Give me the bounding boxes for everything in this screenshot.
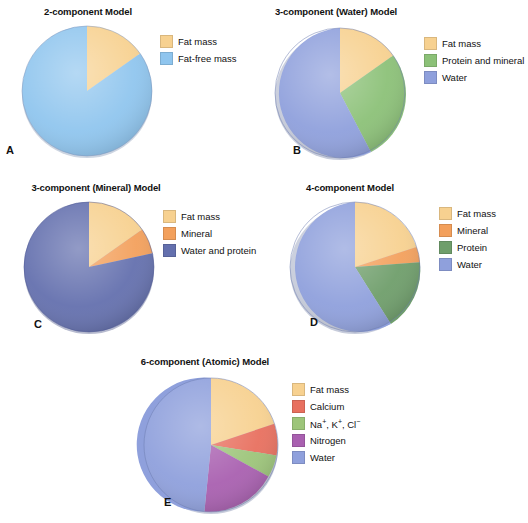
legend-swatch-protein-and-mineral-icon [424,54,437,67]
legend-item: Fat mass [163,209,256,223]
legend-label: Calcium [310,401,344,412]
panel-letter-e: E [164,496,171,508]
legend-label: Water [310,452,335,463]
legend-item: Fat mass [424,36,524,50]
legend-label: Fat mass [181,211,220,222]
pie-a-svg [20,24,154,158]
legend-label: Water and protein [181,245,256,256]
legend-item: Water [292,450,360,464]
legend-item: Fat mass [439,206,496,220]
legend-swatch-protein-icon [439,241,452,254]
panel-b: 3-component (Water) Model B Fat [248,6,528,17]
pie-chart-a: A [20,24,154,158]
pie-chart-e: E [142,376,280,514]
legend-label: Fat mass [442,38,481,49]
legend-label: Fat mass [178,36,217,47]
panel-e: 6-component (Atomic) Model E [110,356,528,367]
panel-d-title: 4-component Model [264,182,436,193]
legend-label-ions: Na+, K+, Cl− [310,416,360,430]
legend-item: Mineral [163,226,256,240]
pie-chart-d: D [288,200,422,334]
pie-b-svg [273,26,407,160]
legend-label: Mineral [457,225,488,236]
legend-swatch-fat-mass-icon [439,207,452,220]
legend-swatch-fat-mass-icon [163,210,176,223]
legend-item: Water and protein [163,243,256,257]
legend-item: Fat-free mass [160,51,237,65]
legend-item: Nitrogen [292,433,360,447]
pie-c-svg [22,200,156,334]
legend-swatch-water-icon [424,71,437,84]
legend-label: Water [457,259,482,270]
panel-d: 4-component Model D Fat [264,182,528,193]
pie-chart-c: C [22,200,156,334]
legend-swatch-mineral-icon [163,227,176,240]
panel-c-title: 3-component (Mineral) Model [6,182,186,193]
legend-label: Protein and mineral [442,55,524,66]
panel-letter-a: A [6,144,14,156]
panel-letter-b: B [293,144,301,156]
legend-e: Fat mass Calcium Na+, K+, Cl− Nitrogen W… [292,382,360,467]
panel-e-title: 6-component (Atomic) Model [110,356,300,367]
panel-a: 2-component Model A Fat mass [0,6,264,17]
legend-swatch-water-icon [292,451,305,464]
legend-item: Water [439,257,496,271]
legend-c: Fat mass Mineral Water and protein [163,209,256,260]
legend-item: Mineral [439,223,496,237]
legend-label: Water [442,72,467,83]
legend-label: Fat mass [457,208,496,219]
legend-swatch-fat-mass-icon [160,35,173,48]
legend-swatch-nitrogen-icon [292,434,305,447]
legend-item: Protein [439,240,496,254]
legend-swatch-fat-mass-icon [292,383,305,396]
legend-label: Fat mass [310,384,349,395]
panel-b-title: 3-component (Water) Model [248,6,424,17]
panel-letter-c: C [34,318,42,330]
pie-chart-b: B [273,26,407,160]
legend-label: Fat-free mass [178,53,237,64]
legend-swatch-calcium-icon [292,400,305,413]
legend-item: Fat mass [292,382,360,396]
pie-d-svg [288,200,422,334]
panel-c: 3-component (Mineral) Model C Fa [0,182,264,193]
legend-d: Fat mass Mineral Protein Water [439,206,496,274]
legend-swatch-water-icon [439,258,452,271]
legend-swatch-fat-free-mass-icon [160,52,173,65]
legend-swatch-ions-icon [292,417,305,430]
legend-item: Calcium [292,399,360,413]
legend-swatch-mineral-icon [439,224,452,237]
legend-item: Water [424,70,524,84]
legend-label: Nitrogen [310,435,346,446]
legend-a: Fat mass Fat-free mass [160,34,237,68]
legend-label: Mineral [181,228,212,239]
panel-a-title: 2-component Model [8,6,168,17]
panel-letter-d: D [310,316,318,328]
legend-b: Fat mass Protein and mineral Water [424,36,524,87]
legend-item: Fat mass [160,34,237,48]
legend-swatch-water-and-protein-icon [163,244,176,257]
pie-e-svg [142,376,280,514]
legend-label: Protein [457,242,487,253]
legend-item: Na+, K+, Cl− [292,416,360,430]
legend-swatch-fat-mass-icon [424,37,437,50]
legend-item: Protein and mineral [424,53,524,67]
